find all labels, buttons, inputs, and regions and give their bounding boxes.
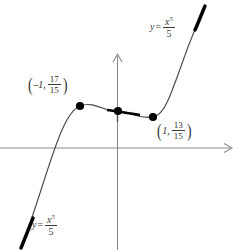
- coordinate-y-denominator: 15: [48, 85, 61, 95]
- equation-fraction: x55: [163, 16, 175, 40]
- point-inflection: [114, 107, 122, 115]
- equation-numerator: x5: [45, 214, 57, 227]
- coordinate-y-denominator: 15: [172, 131, 185, 141]
- coordinate-comma: ,: [167, 126, 171, 136]
- equation-operator: =: [36, 219, 44, 230]
- equation-numerator-exponent: 5: [52, 212, 55, 219]
- point-label-local-maximum: (–1,1715): [27, 74, 68, 96]
- equation-label-top-right: y=x55: [150, 16, 176, 40]
- equation-numerator-exponent: 5: [170, 14, 173, 21]
- equation-label-bottom-left: y=x55: [32, 214, 58, 238]
- coordinate-y-numerator: 17: [48, 74, 61, 85]
- plot-canvas: [0, 0, 245, 250]
- coordinate-y-numerator: 13: [172, 120, 185, 131]
- equation-denominator: 5: [45, 226, 57, 238]
- y-axis: [113, 54, 122, 250]
- coordinate-y-fraction: 1715: [48, 74, 61, 96]
- point-label-local-minimum: (1,1315): [156, 120, 192, 142]
- equation-denominator: 5: [163, 28, 175, 40]
- equation-operator: =: [154, 21, 162, 32]
- graph-figure: y=x55 y=x55 (–1,1715) (1,1315): [0, 0, 245, 250]
- equation-fraction: x55: [45, 214, 57, 238]
- tangent-segment-at-inflection: [107, 110, 140, 115]
- coordinate-y-fraction: 1315: [172, 120, 185, 142]
- open-paren: (: [157, 121, 162, 140]
- x-axis: [0, 144, 232, 153]
- point-local-maximum: [76, 102, 84, 110]
- close-paren: ): [187, 121, 192, 140]
- open-paren: (: [28, 75, 33, 94]
- coordinate-comma: ,: [43, 80, 47, 90]
- close-paren: ): [63, 75, 68, 94]
- curve-end-segment-upper-right: [195, 6, 205, 30]
- equation-numerator: x5: [163, 16, 175, 29]
- coordinate-x: –1: [33, 80, 43, 90]
